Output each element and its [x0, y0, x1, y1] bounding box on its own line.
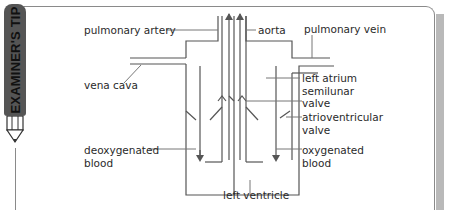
label-av-1: atrioventricular: [302, 111, 383, 123]
deoxy-arrow-icon: [196, 155, 204, 162]
label-deoxygenated-1: deoxygenated: [84, 144, 159, 156]
label-left-ventricle: left ventricle: [223, 189, 289, 201]
av-valve-left-b: [210, 107, 222, 120]
label-semilunar-2: valve: [302, 97, 330, 109]
av-valve-left-a: [186, 111, 196, 120]
aorta-arrow-icon: [236, 13, 244, 20]
semilunar-valve-mid: [229, 96, 234, 101]
label-vena-cava: vena cava: [84, 79, 138, 91]
label-left-atrium: left atrium: [302, 72, 357, 84]
label-pulmonary-artery: pulmonary artery: [84, 24, 176, 36]
label-av-2: valve: [302, 124, 330, 136]
label-pulmonary-vein: pulmonary vein: [304, 23, 386, 35]
label-oxygenated-1: oxygenated: [302, 144, 364, 156]
label-oxygenated-2: blood: [302, 157, 331, 169]
pa-arrow-icon: [225, 13, 233, 20]
semilunar-valve-right: [238, 96, 246, 101]
ra-outer: [186, 16, 218, 58]
av-valve-right-a: [246, 107, 258, 120]
label-deoxygenated-2: blood: [84, 157, 113, 169]
label-semilunar-1: semilunar: [302, 85, 354, 97]
label-aorta: aorta: [258, 24, 286, 36]
